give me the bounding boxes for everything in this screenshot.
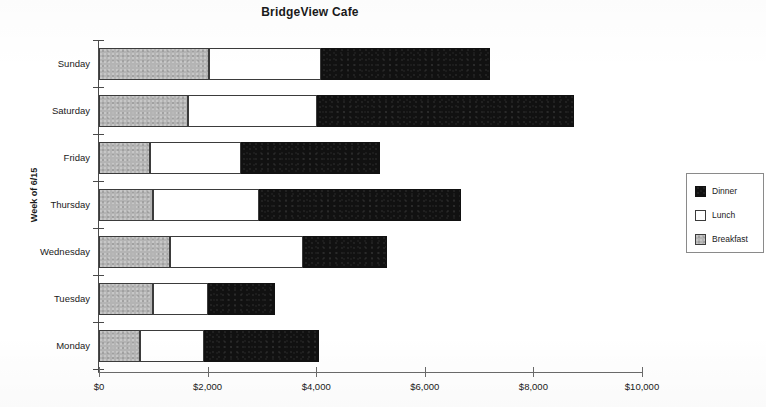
category-label: Sunday xyxy=(0,58,90,69)
x-axis-line xyxy=(98,372,643,373)
legend-item: Lunch xyxy=(695,208,735,222)
bar-segment-lunch xyxy=(150,142,241,174)
legend-item: Dinner xyxy=(695,184,737,198)
breakfast-swatch xyxy=(695,234,706,245)
lunch-swatch xyxy=(695,210,706,221)
bar-segment-lunch xyxy=(153,283,207,315)
bar-segment-breakfast xyxy=(99,236,170,268)
bar-segment-dinner xyxy=(317,95,573,127)
bar-row xyxy=(99,48,642,80)
bar-row xyxy=(99,236,642,268)
chart-legend: DinnerLunchBreakfast xyxy=(686,173,764,253)
category-label: Thursday xyxy=(0,199,90,210)
bar-row xyxy=(99,283,642,315)
category-label: Monday xyxy=(0,340,90,351)
bar-segment-lunch xyxy=(209,48,320,80)
bar-segment-dinner xyxy=(241,142,380,174)
dinner-swatch xyxy=(695,186,706,197)
stacked-bar-chart: BridgeView Cafe Week of 6/15 SundaySatur… xyxy=(0,0,766,407)
bar-segment-dinner xyxy=(204,330,320,362)
bar-segment-dinner xyxy=(303,236,387,268)
x-axis-tick-label: $10,000 xyxy=(625,381,659,392)
bar-segment-dinner xyxy=(259,189,461,221)
x-axis-tick-label: $4,000 xyxy=(302,381,331,392)
chart-title: BridgeView Cafe xyxy=(0,5,620,19)
bar-segment-lunch xyxy=(153,189,259,221)
legend-item-label: Dinner xyxy=(712,186,737,196)
x-axis-tick xyxy=(642,367,643,377)
category-label: Saturday xyxy=(0,105,90,116)
bar-segment-dinner xyxy=(208,283,275,315)
bar-segment-dinner xyxy=(321,48,490,80)
bar-row xyxy=(99,330,642,362)
bar-segment-lunch xyxy=(188,95,318,127)
legend-item-label: Breakfast xyxy=(712,234,748,244)
bar-segment-breakfast xyxy=(99,330,140,362)
bar-row xyxy=(99,189,642,221)
bar-row xyxy=(99,142,642,174)
x-axis-tick-label: $2,000 xyxy=(193,381,222,392)
bar-segment-breakfast xyxy=(99,283,153,315)
bar-segment-lunch xyxy=(170,236,303,268)
x-axis-tick-label: $0 xyxy=(94,381,105,392)
bar-segment-lunch xyxy=(140,330,204,362)
category-label: Friday xyxy=(0,152,90,163)
bar-segment-breakfast xyxy=(99,95,188,127)
legend-item-label: Lunch xyxy=(712,210,735,220)
bar-segment-breakfast xyxy=(99,189,153,221)
category-label: Wednesday xyxy=(0,246,90,257)
x-axis-tick-label: $8,000 xyxy=(519,381,548,392)
x-axis-tick-label: $6,000 xyxy=(410,381,439,392)
category-label: Tuesday xyxy=(0,293,90,304)
bar-segment-breakfast xyxy=(99,48,209,80)
bar-segment-breakfast xyxy=(99,142,150,174)
bar-row xyxy=(99,95,642,127)
plot-area xyxy=(99,40,642,372)
legend-item: Breakfast xyxy=(695,232,748,246)
